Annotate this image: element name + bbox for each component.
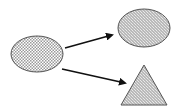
diagram-canvas bbox=[0, 0, 179, 111]
arrow-to-triangle bbox=[62, 69, 125, 83]
arrow-to-ellipse bbox=[65, 35, 112, 48]
target-triangle-node bbox=[121, 65, 167, 105]
source-ellipse-node bbox=[11, 36, 63, 72]
target-ellipse-node bbox=[118, 9, 170, 47]
